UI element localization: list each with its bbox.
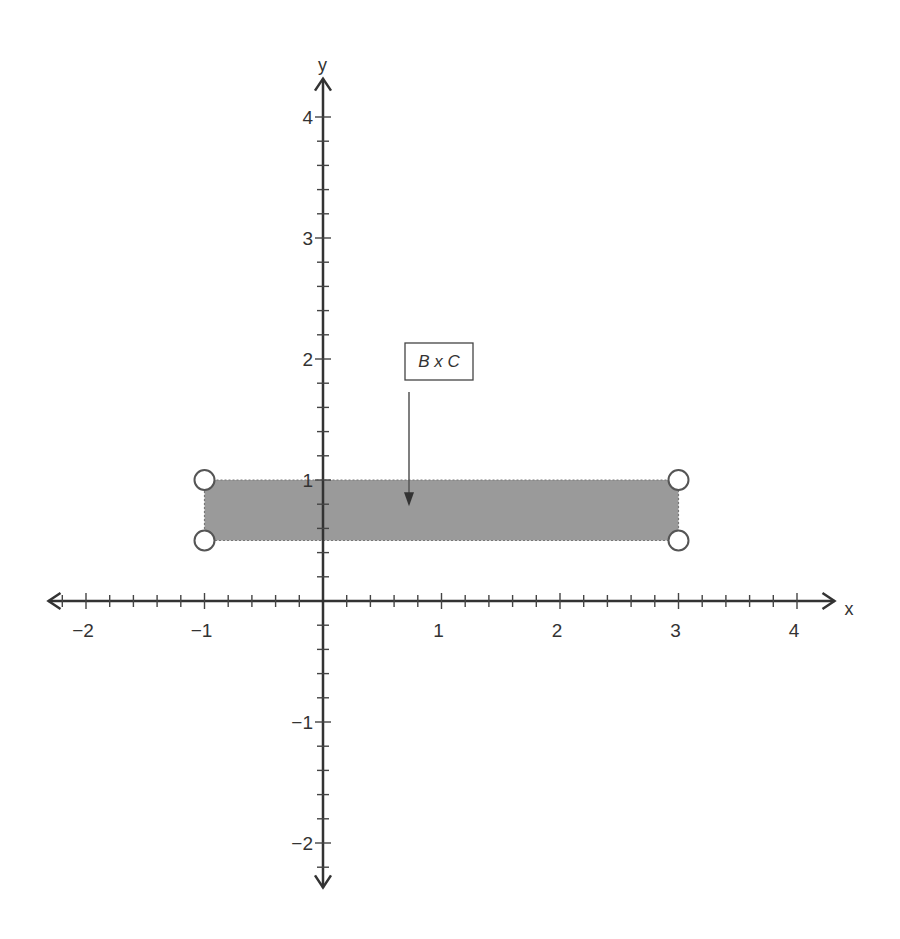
x-tick-label: 2 (552, 620, 563, 641)
shaded-region-b-x-c (205, 480, 679, 541)
x-tick-label: 4 (789, 620, 800, 641)
x-tick-label: 1 (433, 620, 444, 641)
y-tick-label: 2 (302, 349, 313, 370)
y-tick-label: −2 (291, 833, 313, 854)
open-point (195, 470, 215, 490)
coordinate-plane: x y −2−11234−2−11234 B x C (0, 0, 900, 939)
x-tick-label: −1 (191, 620, 213, 641)
open-point (669, 470, 689, 490)
open-point (669, 531, 689, 551)
x-axis-label: x (844, 599, 853, 619)
y-tick-label: 1 (302, 470, 313, 491)
y-tick-label: 4 (302, 107, 313, 128)
x-tick-label: 3 (670, 620, 681, 641)
open-point (195, 531, 215, 551)
annotation-label: B x C (418, 352, 460, 371)
y-tick-label: −1 (291, 712, 313, 733)
y-axis-label: y (318, 55, 327, 75)
y-tick-label: 3 (302, 228, 313, 249)
x-tick-label: −2 (72, 620, 94, 641)
